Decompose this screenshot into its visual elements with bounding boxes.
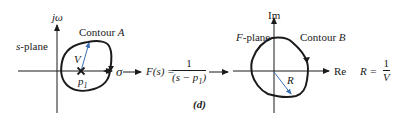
tf-denominator: (s − p1) xyxy=(172,70,206,86)
contour-b xyxy=(251,38,308,97)
contour-b-letter: B xyxy=(339,31,346,43)
relation-fraction: 1 V xyxy=(383,58,390,83)
vector-r-label: R xyxy=(287,75,294,86)
contour-a-label: Contour A xyxy=(79,27,125,38)
relation-lhs: R = xyxy=(360,66,380,77)
sigma-axis-label: σ xyxy=(116,65,122,78)
contour-b-text: Contour xyxy=(300,31,339,43)
pole-subscript: 1 xyxy=(84,81,88,90)
s-plane-rest: -plane xyxy=(20,40,47,52)
s-plane-axes xyxy=(18,25,112,113)
re-axis-label: Re xyxy=(334,66,346,77)
contour-a-letter: A xyxy=(118,26,125,38)
relation-numerator: 1 xyxy=(384,58,390,70)
relation-denominator: V xyxy=(383,70,390,83)
contour-b-label: Contour B xyxy=(300,32,346,43)
contour-a-text: Contour xyxy=(79,26,118,38)
f-plane-var: F xyxy=(236,31,243,43)
jw-axis-label: jω xyxy=(52,12,63,23)
tf-den-prefix: (s − p xyxy=(172,71,198,83)
pole-p1-label: p1 xyxy=(78,76,88,90)
vector-v-label: V xyxy=(74,54,81,65)
f-plane-label: F-plane xyxy=(236,32,270,43)
s-plane-label: s-plane xyxy=(16,41,48,52)
contour-a-direction-arrow-2 xyxy=(103,68,110,74)
transfer-function-fraction: 1 (s − p1) xyxy=(172,58,206,86)
contour-b-direction-arrow xyxy=(303,57,310,63)
tf-den-suffix: ) xyxy=(202,71,206,83)
f-plane-rest: -plane xyxy=(243,31,270,43)
figure-label: (d) xyxy=(193,99,206,110)
tf-numerator: 1 xyxy=(186,58,192,70)
im-axis-label: Im xyxy=(268,10,280,21)
vector-v xyxy=(81,43,89,71)
